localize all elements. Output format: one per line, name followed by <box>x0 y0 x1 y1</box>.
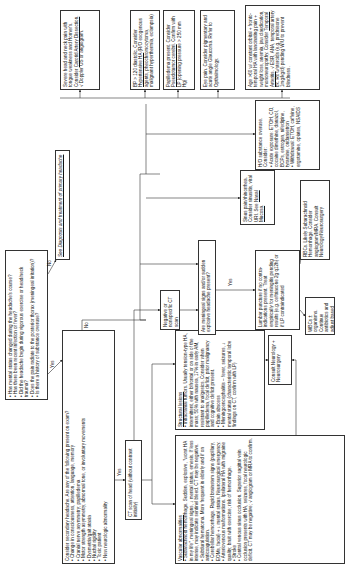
eye-text: Eye pain. Consider pigmentary and acute … <box>203 15 219 87</box>
primary-headache-box[interactable]: See Diagnosis and treatment of primary h… <box>55 150 70 260</box>
ct-scan-box: CT scan of head (without contrast initia… <box>125 440 142 520</box>
hypertensive-ha-box: BP > 120 diastolic. Consider Hypertensiv… <box>130 10 160 90</box>
papilledema-box: Papilledema present. Consider Pseudotumo… <box>163 10 195 90</box>
consult-text: Consult Neurology + Neurosurgery <box>271 340 281 382</box>
sinus-pain-box: Sinus pain/rhinorrhea. Consider sinusiti… <box>240 170 275 225</box>
yes-label: Yes <box>50 361 55 369</box>
ct-scan-text: CT scan of head (without contrast initia… <box>128 448 138 517</box>
initial-questions-box: Has mental status changed during the hea… <box>5 250 48 400</box>
structural-lesions-box: Structural lesions Intracranial tumors. … <box>175 330 265 430</box>
papilledema-text: Papilledema present. Consider <box>166 24 171 87</box>
structural-item: Intracranial tumors. Usually tension-typ… <box>183 333 215 427</box>
negative-ct-text: Negative or nonspecific CT scan <box>163 297 179 327</box>
exam-item: New neurologic abnormality <box>103 333 108 561</box>
structural-item: Meningoencephalitis – fever, seizures, ↓… <box>221 333 237 427</box>
bp-text: BP > 120 diastolic. Consider <box>133 29 138 87</box>
sinus-text-end: . <box>259 205 264 206</box>
question-item: Is there a history of substance overuse? <box>35 253 40 397</box>
yes-label: Yes <box>117 469 122 477</box>
vascular-item: Cerebellar hemorrhage. Rapid brainstem s… <box>210 438 221 561</box>
flowchart-page: Has mental status changed during the hea… <box>0 0 351 564</box>
meningeal-text: Are meningeal signs and/or sudden explos… <box>201 260 211 332</box>
lp-text: Lumbar puncture if no contra-indications… <box>258 254 285 327</box>
vascular-item: Arteriovenous malformations. Ipsilateral… <box>221 438 232 561</box>
carotid-dissection-link[interactable]: Carotid Artery Dissection <box>74 17 79 68</box>
substance-item: Acute exposure: ETOH, CO, cocaine dimeth… <box>269 103 291 167</box>
secondary-headache-box: Consider secondary headache. Are any of … <box>62 330 115 564</box>
substance-title: H/O substance overuse. Consider: <box>258 103 269 167</box>
no-label: No <box>47 260 52 266</box>
negative-ct-box: Negative or nonspecific CT scan <box>160 290 180 330</box>
primary-headache-link[interactable]: See Diagnosis and treatment of primary h… <box>58 155 63 257</box>
carotid-dissection-box: Severe head and neck pain with tongue we… <box>60 10 100 90</box>
vascular-abnormalities-box: Vascular abnormalities Subarachnoid hemo… <box>175 435 345 564</box>
wbc-box: WBCs ± organisms. Continue antibiotics a… <box>305 297 335 335</box>
pseudotumor-link[interactable]: Pseudotumor cerebri <box>171 44 176 87</box>
temporal-arteritis-box: Age >60 w/ constant orbital + fronto-tem… <box>245 5 320 90</box>
meningeal-signs-box: Are meningeal signs and/or sudden explos… <box>198 240 216 335</box>
no-label: No <box>84 322 89 328</box>
question-item: Did the headache begin during vigorous e… <box>19 253 30 397</box>
rbc-box: RBCs. Likely Subarachnoid Hemorrhage. Co… <box>300 180 330 260</box>
wbc-text: WBCs ± organisms. Continue antibiotics a… <box>308 303 335 332</box>
substance-overuse-box: H/O substance overuse. Consider: Acute e… <box>255 100 320 170</box>
vascular-item: Subdural hematoma. More frequent in elde… <box>200 438 211 561</box>
eye-pain-box: Eye pain. Consider pigmentary and acute … <box>200 10 235 90</box>
hypertensive-ha-link[interactable]: Hypertensive HA <box>138 53 143 87</box>
substance-item: Withdrawal: ETOH, caffeine, ergotamine, … <box>290 103 301 167</box>
yes-label: Yes <box>228 279 233 287</box>
consult-neurology-box: Consult Neurology + Neurosurgery <box>268 335 292 385</box>
lumbar-puncture-box: Lumbar puncture if no contra-indications… <box>255 250 300 330</box>
vascular-item: Central venous sinus occlusion. Superior… <box>237 438 253 561</box>
rbc-text: RBCs. Likely Subarachnoid Hemorrhage. Co… <box>303 201 324 257</box>
vascular-item: Subarachnoid hemorrhage. Sudden, explosi… <box>183 438 199 561</box>
